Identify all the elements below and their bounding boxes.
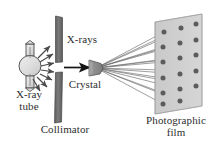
xray-tube-graphic <box>19 41 54 92</box>
diffraction-spot <box>194 84 199 89</box>
diffraction-spot <box>161 76 166 81</box>
diffraction-spot <box>194 22 199 27</box>
diffraction-spot <box>194 38 199 43</box>
diffraction-spot <box>161 91 166 96</box>
diffraction-spot <box>178 41 183 46</box>
diffraction-spot <box>194 53 199 58</box>
label-crystal: Crystal <box>59 79 111 91</box>
diffraction-spot <box>178 87 183 92</box>
figure-canvas: X-rays Crystal X-ray tube Collimator Pho… <box>0 0 214 150</box>
label-xrays: X-rays <box>57 34 107 46</box>
diffraction-spot <box>178 72 183 77</box>
diffraction-spot <box>178 99 183 104</box>
diffraction-spot <box>161 45 166 50</box>
xray-tube-bulb <box>19 56 41 77</box>
diffraction-spot <box>179 26 184 31</box>
label-photographic-film: Photographic film <box>138 115 214 138</box>
label-collimator: Collimator <box>26 124 104 136</box>
diffraction-spot <box>194 69 199 74</box>
diffraction-spot <box>162 30 167 35</box>
diffraction-spot <box>161 102 166 107</box>
label-xray-tube: X-ray tube <box>4 89 54 112</box>
diffraction-spot <box>178 56 183 61</box>
diffraction-spot <box>161 60 166 65</box>
xray-tube-top-cap <box>25 41 34 45</box>
collimator-graphic <box>55 16 63 123</box>
crystal-graphic <box>89 60 103 76</box>
